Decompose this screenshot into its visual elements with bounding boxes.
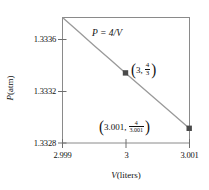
point-1-numerator: 4 [145,62,151,69]
ytick-label-1: 1.3336 [6,34,56,44]
point-1-y-fraction: 43 [145,62,151,77]
y-axis-title: P(atm) [5,63,15,113]
ytick-label-3: 1.3328 [6,138,56,148]
chart-figure: 1.3336 1.3332 1.3328 2.999 3 3.001 P(atm… [0,0,209,190]
x-axis-title: V(liters) [62,170,190,180]
xtick-label-3: 3.001 [169,150,209,160]
point-2-y-fraction: 43.001 [129,120,145,133]
equation-annotation: P = 4/V [92,28,122,38]
paren-close-1: ) [151,61,156,78]
data-point-marker-1 [123,70,128,75]
point-1-x-value: 3, [136,65,144,75]
x-axis-unit: (liters) [117,170,141,180]
point-2-x-value: 3.001, [104,122,128,132]
paren-close-2: ) [145,118,150,135]
data-point-marker-2 [187,126,192,131]
point-1-denominator: 3 [145,70,151,77]
y-axis-unit: (atm) [5,76,15,96]
paren-open-2: ( [99,118,104,135]
point-label-2: (3.001,43.001) [99,119,150,134]
paren-open-1: ( [131,61,136,78]
xtick-label-1: 2.999 [42,150,83,160]
xtick-label-2: 3 [106,150,147,160]
point-2-denominator: 3.001 [129,127,145,133]
y-axis-variable: P [5,95,15,101]
point-label-1: (3,43) [131,62,156,77]
